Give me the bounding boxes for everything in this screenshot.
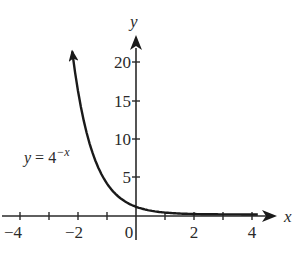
- y-tick-label: 10: [114, 130, 131, 149]
- y-axis-label: y: [128, 12, 138, 31]
- equation-exponent: −x: [56, 145, 70, 159]
- x-tick-label: −4: [4, 223, 23, 242]
- y-tick-label: 20: [114, 53, 131, 72]
- equation-label: y = 4−x: [22, 145, 70, 167]
- x-axis-label: x: [283, 207, 292, 226]
- y-axis: 5 10 15 20 y: [114, 12, 142, 240]
- exponential-chart: −4 −2 0 2 4 x 5 10 15 20 y y = 4−x: [0, 0, 300, 259]
- y-tick-label: 15: [114, 92, 131, 111]
- x-axis: −4 −2 0 2 4 x: [2, 207, 292, 242]
- y-tick-label: 5: [123, 168, 132, 187]
- x-tick-label: 2: [190, 223, 199, 242]
- curve-y-4-neg-x: [72, 52, 258, 215]
- x-tick-label: −2: [65, 223, 83, 242]
- equation-eq: = 4: [31, 149, 56, 166]
- x-tick-label: 4: [248, 223, 257, 242]
- y-axis-arrow-icon: [130, 35, 142, 50]
- x-tick-label: 0: [125, 223, 134, 242]
